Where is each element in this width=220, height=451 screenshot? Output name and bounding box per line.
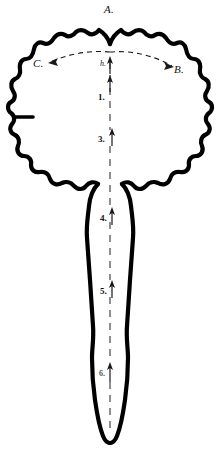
label-level-6: 6. [99,370,105,378]
label-level-1: 1. [98,93,105,102]
label-arc-c: C. [33,58,44,69]
label-level-5: 5. [100,287,107,296]
arrowhead-left-c [48,58,58,66]
direction-arrows [107,56,115,382]
anatomical-figure: A. B. C. h. 1. 3. 4. 5. 6. [0,0,220,451]
label-arc-b: B. [174,64,184,75]
arrowhead-right-b [164,62,174,70]
dashed-arc-right [110,52,172,66]
label-apex-a: A. [104,4,114,15]
arrow-level-6 [107,362,113,382]
arrow-level-2 [107,75,113,92]
arrow-h [107,56,113,74]
arrow-level-3 [109,128,115,146]
arrow-level-5 [109,280,115,298]
label-level-4: 4. [100,214,107,223]
label-level-3: 3. [98,135,105,144]
label-center-h: h. [100,60,106,68]
